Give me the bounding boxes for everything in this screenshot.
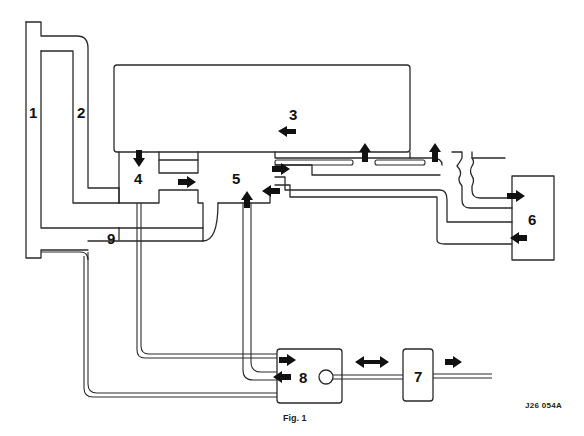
figure-caption: Fig. 1 [283,413,307,423]
arrow-right-icon [279,354,296,366]
sensor-circle [319,370,333,384]
component-3-box [114,65,410,152]
label-8: 8 [299,370,307,385]
tube-8-7 [333,375,403,379]
label-6: 6 [528,212,536,227]
arrow-right-icon [507,190,525,202]
arrow-right-icon [178,176,196,188]
label-4: 4 [134,171,142,186]
arrow-right-icon [445,356,462,368]
reference-code: J26 054A [525,401,562,410]
duct-1-2 [26,22,119,258]
arrow-left-icon [273,371,291,383]
label-9: 9 [107,231,115,246]
tube-7-out [433,374,492,378]
label-1: 1 [29,105,37,120]
schematic-diagram [0,0,584,436]
arrow-left-icon [278,126,296,137]
label-5: 5 [232,171,240,186]
ducts-5-to-6 [275,152,512,244]
arrow-left-icon [262,185,280,197]
tubes-to-8 [41,203,277,397]
label-3: 3 [289,107,297,122]
label-2: 2 [77,105,85,120]
double-arrow-icon [355,356,389,368]
label-7: 7 [414,369,422,384]
